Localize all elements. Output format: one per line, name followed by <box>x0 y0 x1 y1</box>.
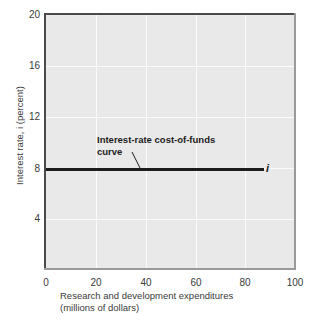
xtick-80: 80 <box>225 272 265 284</box>
x-axis-title-line-2: (millions of dollars) <box>60 302 290 314</box>
xtick-label-80: 80 <box>239 277 250 288</box>
xtick-40: 40 <box>126 272 166 284</box>
xtick-100: 100 <box>275 272 315 284</box>
ytick-20: 20 <box>0 10 40 20</box>
gridline-horizontal-16 <box>46 66 295 67</box>
gridline-horizontal-4 <box>46 219 295 220</box>
axis-top <box>46 13 296 15</box>
axis-left <box>44 13 46 270</box>
xtick-60: 60 <box>176 272 216 284</box>
curve-end-label-i: i <box>266 162 269 174</box>
gridline-horizontal-12 <box>46 117 295 118</box>
x-axis-title-line-1: Research and development expenditures <box>60 290 290 302</box>
xtick-label-60: 60 <box>190 277 201 288</box>
xtick-0: 0 <box>26 272 66 284</box>
curve-annotation-line-1: Interest-rate cost-of-funds <box>97 134 247 146</box>
xtick-label-100: 100 <box>287 277 304 288</box>
axis-right <box>294 13 296 270</box>
y-axis-title: Interest rate, i (percent) <box>14 46 25 226</box>
interest-rate-cost-of-funds-curve <box>46 168 264 171</box>
axis-bottom <box>44 268 296 270</box>
curve-annotation: Interest-rate cost-of-funds curve <box>97 134 247 157</box>
xtick-label-40: 40 <box>140 277 151 288</box>
chart-figure: 20 16 12 8 4 0 20 40 60 80 100 Interest … <box>0 0 318 324</box>
xtick-label-20: 20 <box>90 277 101 288</box>
xtick-20: 20 <box>76 272 116 284</box>
curve-annotation-line-2: curve <box>97 146 247 158</box>
xtick-label-0: 0 <box>43 277 49 288</box>
ytick-label-20: 20 <box>0 10 40 20</box>
x-axis-title: Research and development expenditures (m… <box>60 290 290 314</box>
